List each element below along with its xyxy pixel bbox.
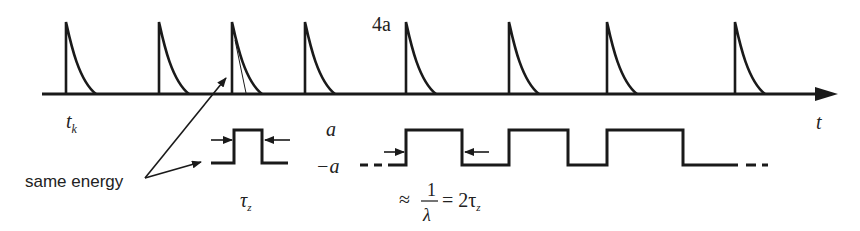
impulse-start-label: tk [66,110,78,136]
impulse [305,22,335,94]
svg-text:≈: ≈ [399,188,410,210]
small-pulse-width-label: τz [240,189,252,213]
level-low-label: −a [316,155,340,177]
svg-text:= 2τz: = 2τz [442,189,481,213]
pulse-train-diagram: 4a tk t τz a −a ≈ 1 [0,0,860,231]
impulse [406,22,436,94]
impulse [159,22,189,94]
svg-text:λ: λ [422,205,431,225]
impulse-amplitude-label: 4a [372,13,391,35]
level-high-label: a [326,118,336,140]
impulse [232,22,262,94]
svg-text:1: 1 [427,180,436,200]
small-rect-pulse [211,130,288,163]
axis-arrow-icon [815,87,838,101]
time-axis [42,87,838,101]
period-label: ≈ 1 λ = 2τz [399,180,481,225]
impulse [66,22,96,94]
same-energy-label: same energy [25,172,124,191]
impulse [509,22,539,94]
impulse [607,22,637,94]
square-wave [360,130,768,165]
impulse-train [66,22,765,94]
impulse [735,22,765,94]
axis-label-t: t [816,111,822,133]
